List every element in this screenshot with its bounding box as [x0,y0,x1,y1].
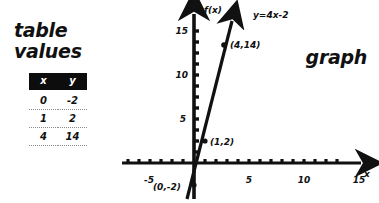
column-header-y: y [58,73,87,90]
table-row: 0 -2 [29,90,87,110]
table-row: 1 2 [29,110,87,128]
point-label-0-neg2: (0,-2) [153,182,181,192]
values-table: x y 0 -2 1 2 4 14 [29,73,87,146]
y-tick-label: 15 [175,26,188,36]
table-header-row: x y [29,73,87,90]
y-tick-label: 5 [180,114,186,124]
point-marker-1-2 [202,138,207,143]
point-label-4-14: (4,14) [230,40,260,50]
cell-y: 2 [58,110,87,128]
math-figure-table-and-graph: table values x y 0 -2 1 2 4 [0,0,379,203]
table-heading-line-2: values [14,41,124,62]
table-row: 4 14 [29,128,87,146]
y-axis-label: f(x) [204,5,222,15]
graph-plot: -5 5 10 15 x [120,0,379,203]
x-axis-label: x [363,169,371,179]
point-label-1-2: (1,2) [210,137,234,147]
column-header-x: x [29,73,58,90]
table-values-heading: table values [14,20,124,62]
y-tick-label: 10 [175,70,188,80]
table-heading-line-1: table [14,20,124,41]
x-tick-label: 5 [246,175,252,185]
cell-y: -2 [58,90,87,110]
graph-heading: graph [306,46,367,68]
y-axis: 5 10 15 f(x) [175,5,221,199]
cell-y: 14 [58,128,87,146]
point-marker-4-14 [221,42,227,48]
point-marker-0-neg2 [191,182,196,187]
cell-x: 1 [29,110,58,128]
equation-label: y=4x-2 [253,10,288,20]
cell-x: 4 [29,128,58,146]
x-tick-label: 10 [298,175,311,185]
cell-x: 0 [29,90,58,110]
